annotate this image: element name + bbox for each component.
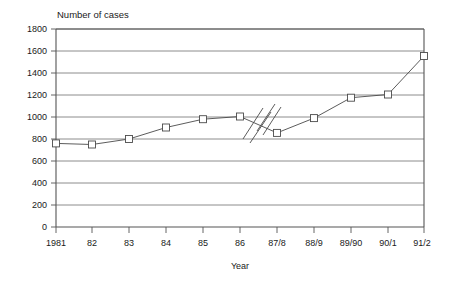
x-tick-label-89-90: 89/90	[340, 238, 363, 248]
data-point-89-90	[348, 94, 355, 101]
data-point-1981	[53, 140, 60, 147]
x-tick-label-83: 83	[124, 238, 134, 248]
y-tick-label-200: 200	[32, 200, 47, 210]
x-tick-label-88-9: 88/9	[305, 238, 323, 248]
x-axis-title: Year	[231, 261, 249, 271]
x-tick-label-86: 86	[235, 238, 245, 248]
plot-background	[56, 29, 424, 227]
data-point-87-8	[274, 129, 281, 136]
data-point-84	[163, 124, 170, 131]
data-point-91-2	[421, 53, 428, 60]
x-tick-label-87-8: 87/8	[268, 238, 286, 248]
y-tick-label-0: 0	[42, 222, 47, 232]
x-tick-label-85: 85	[198, 238, 208, 248]
y-tick-label-1800: 1800	[27, 24, 47, 34]
y-tick-label-600: 600	[32, 156, 47, 166]
y-tick-labels: 1800 1600 1400 1200 1000 800 600 400 200…	[27, 24, 47, 232]
x-tick-labels: 1981 82 83 84 85 86 87/8 88/9 89/90 90/1…	[46, 238, 431, 248]
line-chart: Number of cases	[0, 0, 453, 303]
data-point-86	[237, 113, 244, 120]
data-point-82	[89, 141, 96, 148]
x-tick-label-91-2: 91/2	[413, 238, 431, 248]
y-tick-marks	[51, 29, 56, 227]
x-tick-label-84: 84	[161, 238, 171, 248]
data-point-90-1	[385, 91, 392, 98]
y-tick-label-1000: 1000	[27, 112, 47, 122]
data-point-88-9	[311, 115, 318, 122]
x-tick-label-1981: 1981	[46, 238, 66, 248]
chart-heading: Number of cases	[57, 9, 129, 20]
y-tick-label-400: 400	[32, 178, 47, 188]
data-point-85	[200, 116, 207, 123]
chart-figure: Number of cases	[0, 0, 453, 303]
y-tick-label-800: 800	[32, 134, 47, 144]
data-point-83	[126, 136, 133, 143]
x-tick-label-90-1: 90/1	[379, 238, 397, 248]
x-tick-marks	[56, 227, 424, 233]
y-tick-label-1600: 1600	[27, 46, 47, 56]
y-tick-label-1200: 1200	[27, 90, 47, 100]
y-tick-label-1400: 1400	[27, 68, 47, 78]
x-tick-label-82: 82	[87, 238, 97, 248]
